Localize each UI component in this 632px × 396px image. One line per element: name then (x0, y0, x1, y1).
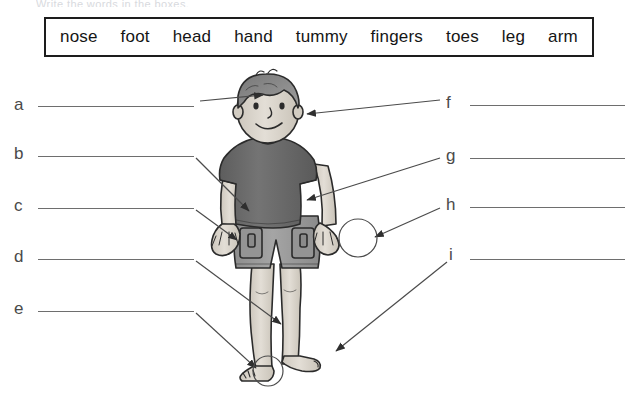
word-bank-item[interactable]: arm (548, 27, 578, 47)
word-bank-item[interactable]: leg (502, 27, 525, 47)
word-bank-item[interactable]: tummy (296, 27, 348, 47)
answer-line-i[interactable] (470, 259, 625, 260)
answer-line-f[interactable] (470, 105, 625, 106)
answer-line-e[interactable] (38, 311, 194, 312)
body-illustration (196, 68, 396, 396)
answer-label-h: h (446, 196, 455, 213)
answer-line-h[interactable] (470, 207, 625, 208)
answer-label-a: a (14, 96, 23, 113)
answer-label-i: i (449, 246, 453, 263)
word-bank-item[interactable]: head (173, 27, 212, 47)
answer-line-c[interactable] (38, 208, 194, 209)
word-bank-item[interactable]: foot (121, 27, 150, 47)
answer-label-d: d (14, 248, 23, 265)
word-bank-item[interactable]: fingers (371, 27, 423, 47)
answer-line-a[interactable] (38, 106, 194, 107)
word-bank: nose foot head hand tummy fingers toes l… (44, 17, 594, 57)
answer-label-e: e (14, 300, 23, 317)
answer-line-b[interactable] (38, 156, 194, 157)
answer-label-c: c (14, 197, 23, 214)
answer-label-g: g (446, 147, 455, 164)
answer-label-f: f (446, 94, 451, 111)
cropped-instruction-text: Write the words in the boxes. (36, 0, 296, 7)
answer-line-g[interactable] (470, 158, 625, 159)
word-bank-item[interactable]: toes (446, 27, 479, 47)
answer-label-b: b (14, 145, 23, 162)
worksheet-page: Write the words in the boxes. nose foot … (0, 0, 632, 396)
word-bank-item[interactable]: hand (234, 27, 273, 47)
answer-line-d[interactable] (38, 259, 194, 260)
word-bank-item[interactable]: nose (60, 27, 98, 47)
